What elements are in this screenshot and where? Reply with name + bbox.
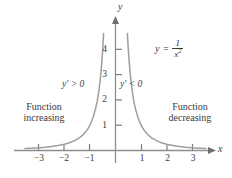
function-decreasing-line1: Function	[172, 101, 208, 112]
x-axis-label: x	[218, 144, 222, 155]
x-tick-label-2: 2	[159, 153, 177, 163]
equation-label: y = 1 x2	[155, 39, 183, 60]
annotation-function-increasing: Function increasing	[8, 102, 80, 124]
annotation-derivative-negative: y′ < 0	[120, 79, 142, 89]
equation-lhs: y	[155, 44, 159, 55]
plot-canvas	[0, 0, 232, 178]
equation-equals-sign: =	[162, 44, 169, 55]
x-tick-label-neg3: −3	[30, 153, 48, 163]
figure-container: y x −3 −2 −1 1 2 3 1 2 3 4 y′ > 0 y′ < 0…	[0, 0, 232, 178]
y-tick-label-2: 2	[99, 94, 110, 104]
function-increasing-line1: Function	[26, 101, 62, 112]
y-tick-label-1: 1	[99, 120, 110, 130]
x-axis-arrowhead	[208, 147, 216, 154]
x-tick-label-neg1: −1	[81, 153, 99, 163]
function-increasing-line2: increasing	[23, 112, 64, 123]
x-tick-label-neg2: −2	[55, 153, 73, 163]
x-tick-label-3: 3	[184, 153, 202, 163]
y-axis-label: y	[118, 2, 122, 13]
equation-fraction: 1 x2	[172, 39, 183, 60]
annotation-derivative-positive: y′ > 0	[62, 79, 84, 89]
function-decreasing-line2: decreasing	[169, 112, 212, 123]
annotation-function-decreasing: Function decreasing	[152, 102, 228, 124]
y-axis-arrowhead	[112, 16, 119, 24]
y-tick-label-4: 4	[99, 44, 110, 54]
x-tick-label-1: 1	[133, 153, 151, 163]
curve-left-branch	[25, 33, 104, 148]
equation-exponent: 2	[178, 47, 181, 54]
y-tick-label-3: 3	[99, 69, 110, 79]
equation-denominator: x2	[172, 50, 183, 59]
